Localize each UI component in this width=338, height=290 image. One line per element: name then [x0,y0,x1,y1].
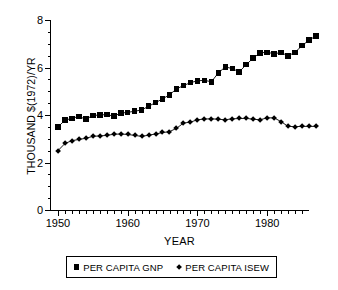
data-point-gnp [216,70,222,76]
legend-item-gnp: PER CAPITA GNP [74,262,163,273]
y-axis-minor-tick [48,151,52,152]
data-point-gnp [167,92,173,98]
x-axis-minor-tick [163,210,164,214]
x-axis-minor-tick [225,210,226,214]
data-point-gnp [299,43,305,49]
x-axis-minor-tick [253,210,254,214]
legend-item-isew: PER CAPITA ISEW [177,262,269,273]
chart-legend: PER CAPITA GNP PER CAPITA ISEW [66,256,277,278]
data-point-gnp [104,112,110,118]
data-point-gnp [83,116,89,122]
y-axis-major-tick [45,210,51,211]
x-axis-minor-tick [211,210,212,214]
y-axis-minor-tick [48,198,52,199]
data-point-gnp [202,78,208,84]
x-axis-minor-tick [156,210,157,214]
plot-inner [51,20,309,210]
y-axis-minor-tick [48,186,52,187]
data-point-gnp [264,50,270,56]
data-point-gnp [118,110,124,116]
x-axis-minor-tick [121,210,122,214]
data-point-gnp [55,124,61,130]
y-axis-tick-label: 2 [37,157,43,168]
x-axis-minor-tick [86,210,87,214]
y-axis-minor-tick [48,174,52,175]
data-point-isew [313,123,319,129]
x-axis-minor-tick [274,210,275,214]
y-axis-minor-tick [48,44,52,45]
x-axis-minor-tick [246,210,247,214]
data-point-gnp [285,53,291,59]
y-axis-major-tick [45,68,51,69]
x-axis-major-tick [197,210,198,216]
x-axis-minor-tick [177,210,178,214]
data-point-gnp [278,50,284,56]
data-point-gnp [223,64,229,70]
x-axis-tick-label: 1960 [115,218,139,229]
x-axis-minor-tick [190,210,191,214]
x-axis-minor-tick [281,210,282,214]
x-axis-minor-tick [93,210,94,214]
x-axis-major-tick [267,210,268,216]
x-axis-minor-tick [218,210,219,214]
x-axis-minor-tick [288,210,289,214]
data-point-gnp [111,113,117,119]
x-axis-minor-tick [100,210,101,214]
x-axis-minor-tick [107,210,108,214]
y-axis-minor-tick [48,127,52,128]
data-point-gnp [90,113,96,119]
data-point-gnp [250,55,256,61]
y-axis-tick-label: 4 [37,110,43,121]
data-point-gnp [125,110,131,116]
y-axis-minor-tick [48,32,52,33]
y-axis-tick-label: 6 [37,62,43,73]
x-axis-tick-label: 1970 [185,218,209,229]
square-marker-icon [74,264,79,269]
data-point-gnp [174,86,180,92]
legend-label-gnp: PER CAPITA GNP [83,262,163,273]
data-point-gnp [132,108,138,114]
y-axis-major-tick [45,115,51,116]
data-point-gnp [306,37,312,43]
data-point-gnp [230,66,236,72]
x-axis-minor-tick [135,210,136,214]
data-point-gnp [271,51,277,57]
y-axis-major-tick [45,163,51,164]
data-point-gnp [236,69,242,75]
x-axis-tick-label: 1950 [46,218,70,229]
x-axis-tick-label: 1980 [255,218,279,229]
data-point-gnp [188,80,194,86]
x-axis-minor-tick [65,210,66,214]
x-axis-minor-tick [239,210,240,214]
data-point-gnp [243,62,249,68]
x-axis-minor-tick [149,210,150,214]
data-point-gnp [181,83,187,89]
data-point-gnp [195,78,201,84]
data-point-gnp [209,79,215,85]
chart-figure: THOUSAND $(1972)/YR 02468195019601970198… [0,0,338,290]
x-axis-minor-tick [170,210,171,214]
data-point-gnp [153,100,159,106]
x-axis-minor-tick [204,210,205,214]
y-axis-major-tick [45,20,51,21]
x-axis-title: YEAR [50,235,309,247]
y-axis-minor-tick [48,139,52,140]
data-point-gnp [139,107,145,113]
x-axis-minor-tick [79,210,80,214]
y-axis-title: THOUSAND $(1972)/YR [25,16,37,216]
y-axis-tick-label: 8 [37,15,43,26]
x-axis-minor-tick [114,210,115,214]
x-axis-minor-tick [183,210,184,214]
x-axis-minor-tick [142,210,143,214]
y-axis-minor-tick [48,56,52,57]
data-point-gnp [292,50,298,56]
data-point-gnp [257,50,263,56]
data-point-gnp [97,112,103,118]
plot-area: 024681950196019701980 [50,20,309,211]
x-axis-minor-tick [295,210,296,214]
x-axis-minor-tick [302,210,303,214]
x-axis-major-tick [128,210,129,216]
data-point-gnp [146,103,152,109]
data-point-gnp [69,116,75,122]
x-axis-major-tick [58,210,59,216]
